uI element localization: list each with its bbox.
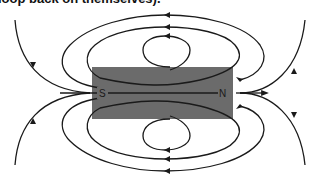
south-pole-label: S <box>99 88 106 99</box>
field-loop-lower-inner <box>143 116 190 150</box>
field-line-right-bottom <box>240 93 305 165</box>
north-pole-label: N <box>219 88 226 99</box>
field-loop-upper-inner <box>143 36 190 70</box>
bar-magnet-field-diagram: S N <box>0 0 321 184</box>
field-line-right-top <box>240 20 305 93</box>
